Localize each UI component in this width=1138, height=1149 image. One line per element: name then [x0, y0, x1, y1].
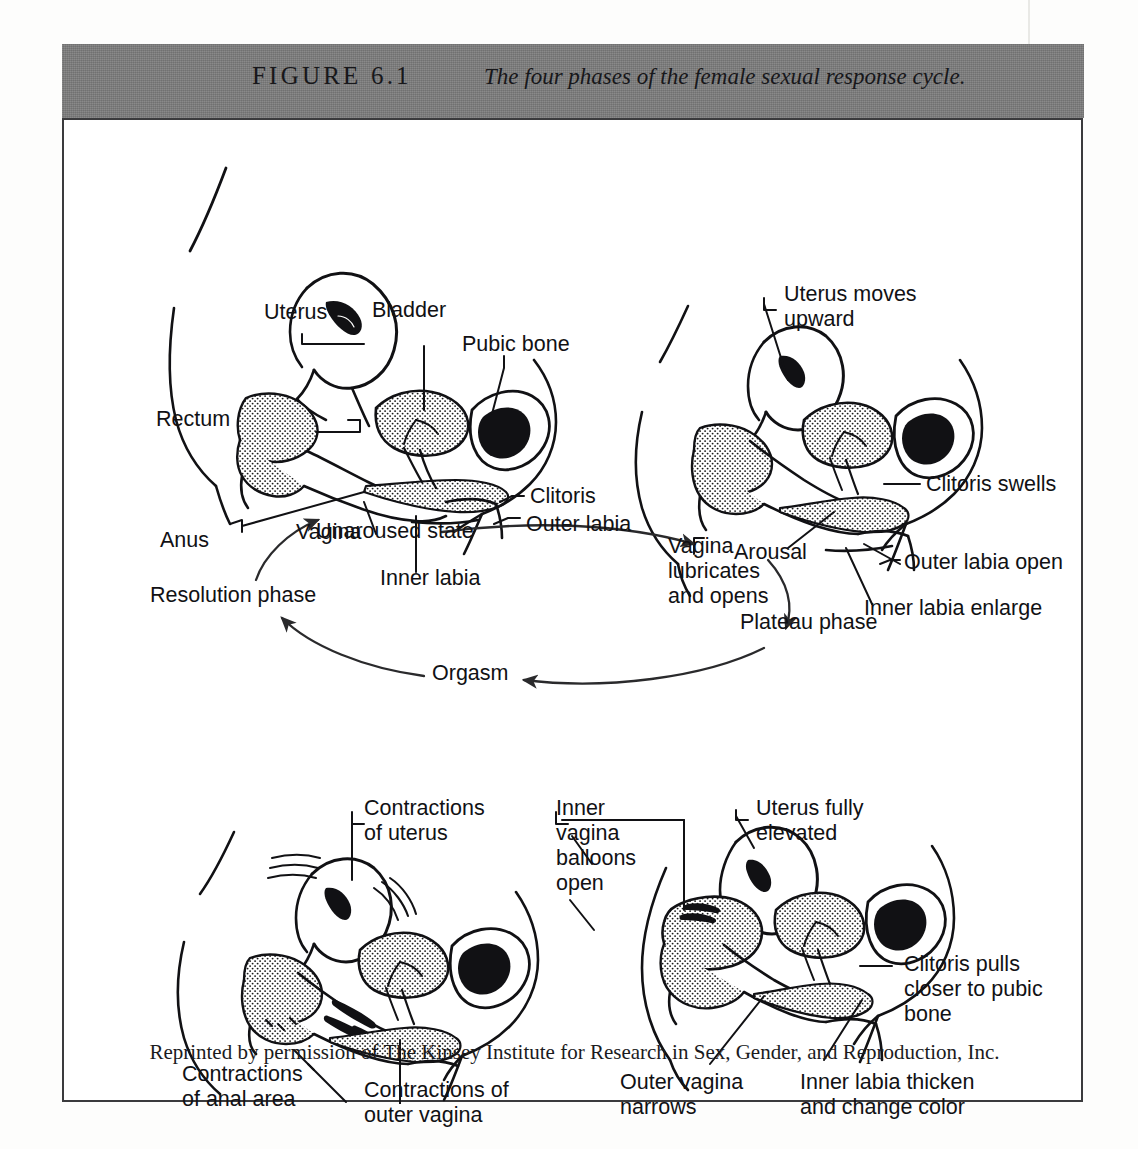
label-rectum: Rectum: [156, 407, 230, 432]
label-inner-labia-enlarge: Inner labia enlarge: [864, 596, 1042, 621]
arrow-plateau-to-orgasm: [524, 648, 764, 683]
label-contractions-of-outer-vagina: Contractions of outer vagina: [364, 1078, 509, 1128]
cycle-node-resolution: Resolution phase: [150, 583, 316, 608]
label-outer-vagina-narrows: Outer vagina narrows: [620, 1070, 743, 1120]
label-contractions-of-anal-area: Contractions of anal area: [182, 1062, 303, 1112]
label-inner-labia: Inner labia: [380, 566, 480, 591]
figure-frame: Uterus Bladder Pubic bone Rectum Clitori…: [62, 118, 1083, 1102]
label-uterus-moves-upward: Uterus moves upward: [784, 282, 917, 332]
label-contractions-of-uterus: Contractions of uterus: [364, 796, 485, 846]
label-outer-labia-open: Outer labia open: [904, 550, 1063, 575]
cycle-node-orgasm: Orgasm: [432, 661, 508, 686]
cycle-node-arousal: Arousal: [734, 540, 807, 565]
arrow-orgasm-to-resolution: [282, 618, 424, 676]
cycle-node-unaroused: Unaroused state: [316, 519, 474, 544]
label-clitoris: Clitoris: [530, 484, 596, 509]
label-outer-labia: Outer labia: [526, 512, 631, 537]
label-pubic-bone: Pubic bone: [462, 332, 570, 357]
label-anus: Anus: [160, 528, 209, 553]
label-uterus: Uterus: [264, 300, 327, 325]
figure-header-band: FIGURE 6.1 The four phases of the female…: [62, 44, 1084, 118]
label-clitoris-swells: Clitoris swells: [926, 472, 1056, 497]
figure-caption: The four phases of the female sexual res…: [484, 64, 965, 90]
credit-line: Reprinted by permission of The Kinsey In…: [64, 1040, 1085, 1065]
label-bladder: Bladder: [372, 298, 446, 323]
scan-artifact-vertical: [1028, 0, 1030, 44]
cycle-node-plateau: Plateau phase: [740, 610, 877, 635]
label-clitoris-pulls-closer: Clitoris pulls closer to pubic bone: [904, 952, 1043, 1027]
label-inner-labia-thicken: Inner labia thicken and change color: [800, 1070, 975, 1120]
panel-unaroused-art: [170, 168, 556, 572]
label-inner-vagina-balloons-open: Inner vagina balloons open: [556, 796, 636, 896]
label-uterus-fully-elevated: Uterus fully elevated: [756, 796, 864, 846]
figure-number: FIGURE 6.1: [252, 62, 412, 90]
